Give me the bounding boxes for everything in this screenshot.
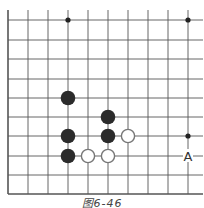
point-label-a: A: [184, 149, 193, 164]
black-stone-icon: [61, 91, 76, 106]
white-stone-icon: [81, 149, 94, 162]
point-labels: A: [183, 149, 193, 164]
black-stone-icon: [61, 149, 76, 164]
star-point-icon: [185, 17, 190, 22]
white-stone-icon: [121, 129, 134, 142]
go-board-diagram: A: [0, 0, 204, 196]
black-stone-icon: [101, 129, 116, 144]
white-stone-icon: [101, 149, 114, 162]
star-point-icon: [65, 17, 70, 22]
board-grid: [8, 10, 203, 194]
figure-caption: 图6-46: [0, 194, 204, 208]
black-stone-icon: [101, 110, 116, 125]
black-stone-icon: [61, 129, 76, 144]
stones: [61, 91, 135, 164]
star-point-icon: [185, 133, 190, 138]
